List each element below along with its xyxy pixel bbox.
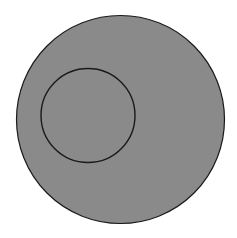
nested-circles-diagram <box>0 0 237 238</box>
outer-circle <box>17 16 225 224</box>
